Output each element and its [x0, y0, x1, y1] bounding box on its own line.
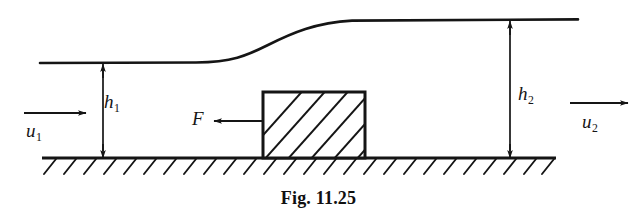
- label-force: F: [192, 109, 204, 128]
- figure-caption: Fig. 11.25: [0, 188, 637, 209]
- label-u2: u2: [582, 112, 597, 131]
- ground-hatching: [44, 159, 554, 174]
- channel-flow-diagram: [0, 0, 637, 190]
- label-h1: h1: [104, 92, 119, 111]
- label-h2: h2: [518, 84, 533, 103]
- water-surface: [40, 19, 578, 63]
- label-u1: u1: [26, 121, 41, 140]
- figure-container: h1 h2 u1 u2 F Fig. 11.25: [0, 0, 637, 223]
